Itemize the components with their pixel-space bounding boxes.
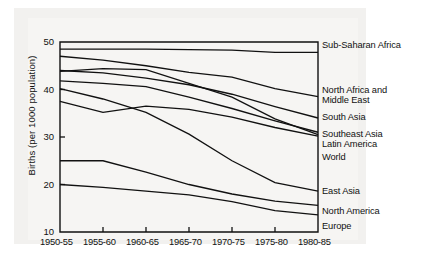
legend-label-middle-east: Middle East: [322, 95, 369, 105]
series-line-north-africa-and-middle-east: [60, 56, 318, 96]
legend-label-world: World: [322, 152, 346, 162]
legend-label-north-america: North America: [322, 206, 380, 216]
x-tick-label: 1950-55: [40, 236, 73, 247]
y-tick-label: 40: [43, 84, 54, 95]
series-line-latin-america: [60, 81, 318, 132]
legend-label-latin-america: Latin America: [322, 139, 377, 149]
y-tick-group: 1020304050: [43, 36, 65, 237]
series-line-southeast-asia: [60, 69, 318, 135]
series-line-europe: [60, 185, 318, 215]
x-tick-label: 1955-60: [83, 236, 116, 247]
axis-frame: [60, 42, 318, 232]
x-axis-labels: 1950-551955-601960-651965-701970-751975-…: [0, 236, 330, 254]
series-line-world: [60, 101, 318, 136]
x-tick-label: 1970-75: [212, 236, 245, 247]
legend-label-southeast-asia: Southeast Asia: [322, 129, 383, 139]
x-tick-label: 1960-65: [126, 236, 159, 247]
y-tick-label: 30: [43, 131, 54, 142]
legend-label-sub-saharan-africa: Sub-Saharan Africa: [322, 40, 401, 50]
series-line-sub-saharan-africa: [60, 49, 318, 52]
legend-label-europe: Europe: [322, 221, 351, 231]
chart-figure: Births (per 1000 population) 1020304050 …: [0, 0, 425, 262]
legend-label-north-africa-and: North Africa and: [322, 85, 387, 95]
series-group: [60, 49, 318, 215]
x-tick-group: [103, 227, 275, 232]
legend: Sub-Saharan AfricaNorth Africa andMiddle…: [322, 0, 425, 262]
x-tick-label: 1965-70: [169, 236, 202, 247]
y-tick-label: 50: [43, 36, 54, 47]
series-line-east-asia: [60, 89, 318, 192]
y-tick-label: 20: [43, 179, 54, 190]
legend-label-east-asia: East Asia: [322, 186, 360, 196]
x-tick-label: 1975-80: [255, 236, 288, 247]
legend-label-south-asia: South Asia: [322, 112, 365, 122]
